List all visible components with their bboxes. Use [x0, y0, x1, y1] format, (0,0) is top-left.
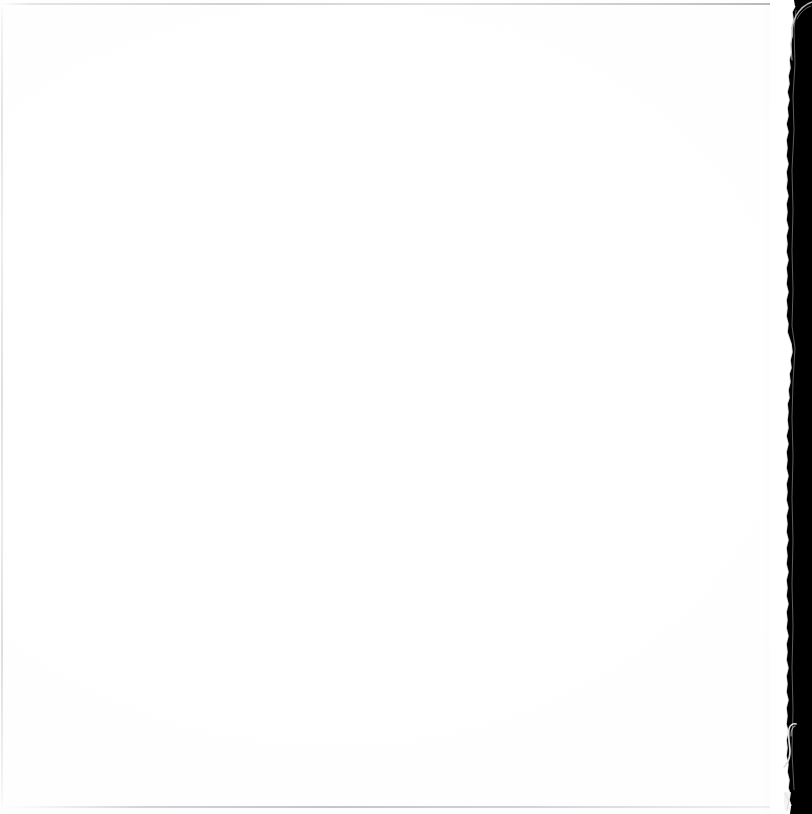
paper-sheet: [0, 0, 792, 814]
paper-texture: [0, 0, 792, 814]
scan-viewport: [0, 0, 812, 814]
